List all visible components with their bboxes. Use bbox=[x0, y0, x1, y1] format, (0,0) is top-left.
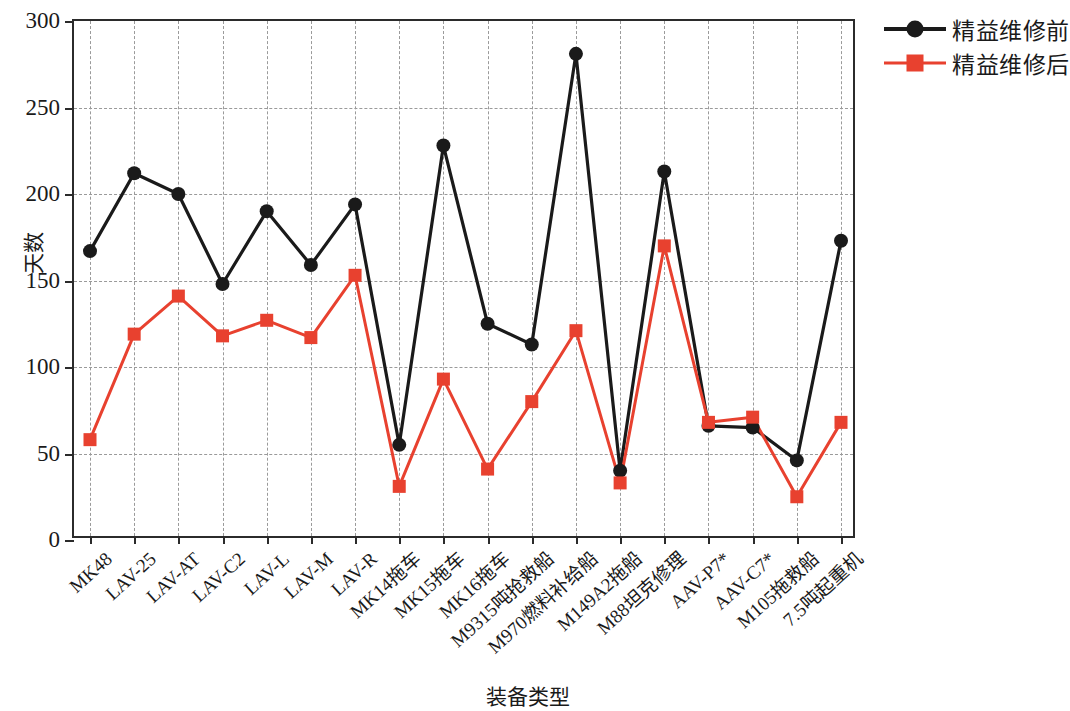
data-point-square bbox=[658, 239, 671, 252]
data-point-circle bbox=[83, 244, 97, 258]
data-point-square bbox=[128, 328, 141, 341]
data-point-square bbox=[260, 314, 273, 327]
data-point-circle bbox=[127, 166, 141, 180]
data-point-circle bbox=[348, 197, 362, 211]
data-point-circle bbox=[260, 204, 274, 218]
legend-swatch-after bbox=[884, 52, 946, 74]
data-point-square bbox=[437, 373, 450, 386]
y-tick-label: 50 bbox=[0, 439, 60, 469]
data-point-circle bbox=[304, 258, 318, 272]
legend-swatch-before bbox=[884, 18, 946, 40]
y-tick-mark bbox=[65, 367, 74, 369]
y-tick-label: 250 bbox=[0, 93, 60, 123]
y-tick-label: 100 bbox=[0, 352, 60, 382]
data-point-square bbox=[349, 269, 362, 282]
y-tick-mark bbox=[65, 108, 74, 110]
data-point-square bbox=[614, 476, 627, 489]
x-axis-tick-labels: MK48LAV-25LAV-ATLAV-C2LAV-LLAV-MLAV-RMK1… bbox=[72, 548, 855, 678]
y-tick-mark bbox=[65, 454, 74, 456]
data-point-square bbox=[481, 463, 494, 476]
data-point-circle bbox=[436, 139, 450, 153]
data-point-circle bbox=[657, 165, 671, 179]
data-point-circle bbox=[790, 453, 804, 467]
y-tick-label: 300 bbox=[0, 6, 60, 36]
y-tick-label: 200 bbox=[0, 179, 60, 209]
data-point-circle bbox=[392, 438, 406, 452]
y-axis-title: 天数 bbox=[17, 213, 47, 293]
data-point-circle bbox=[569, 47, 583, 61]
circle-marker-icon bbox=[907, 21, 924, 38]
legend-label-before: 精益维修前 bbox=[946, 12, 1070, 46]
square-marker-icon bbox=[907, 55, 924, 72]
plot-area: 050100150200250300 bbox=[72, 19, 855, 538]
series-line-before bbox=[90, 54, 841, 471]
data-point-square bbox=[216, 329, 229, 342]
y-tick-mark bbox=[65, 21, 74, 23]
data-point-square bbox=[172, 290, 185, 303]
data-point-square bbox=[525, 395, 538, 408]
legend-label-after: 精益维修后 bbox=[946, 46, 1070, 80]
y-tick-label: 0 bbox=[0, 525, 60, 555]
x-axis-title: 装备类型 bbox=[0, 680, 1055, 710]
legend-item-after: 精益维修后 bbox=[884, 46, 1054, 80]
data-point-circle bbox=[171, 187, 185, 201]
data-point-square bbox=[84, 433, 97, 446]
y-tick-mark bbox=[65, 194, 74, 196]
data-point-circle bbox=[613, 464, 627, 478]
legend-item-before: 精益维修前 bbox=[884, 12, 1054, 46]
data-point-circle bbox=[481, 317, 495, 331]
data-point-square bbox=[393, 480, 406, 493]
data-point-square bbox=[835, 416, 848, 429]
y-tick-mark bbox=[65, 281, 74, 283]
series-line-after bbox=[90, 246, 841, 497]
data-point-square bbox=[746, 411, 759, 424]
data-point-circle bbox=[525, 338, 539, 352]
data-point-square bbox=[569, 324, 582, 337]
data-point-square bbox=[790, 490, 803, 503]
y-tick-mark bbox=[65, 540, 74, 542]
data-point-circle bbox=[216, 277, 230, 291]
legend: 精益维修前 精益维修后 bbox=[884, 12, 1054, 80]
data-point-square bbox=[304, 331, 317, 344]
x-tick-label: LAV-M bbox=[280, 548, 337, 602]
series-plot bbox=[74, 21, 857, 540]
data-point-square bbox=[702, 416, 715, 429]
data-point-circle bbox=[834, 234, 848, 248]
